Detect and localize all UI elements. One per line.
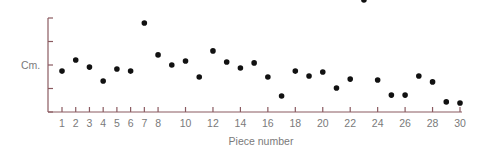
data-point [265,74,271,80]
data-point [183,58,189,64]
x-tick-label: 6 [128,117,134,129]
data-point [238,65,244,71]
x-tick-label: 22 [344,117,356,129]
data-point [457,100,463,106]
data-point [402,92,408,98]
x-tick-label: 7 [141,117,147,129]
x-tick-label: 1 [59,117,65,129]
x-tick-label: 20 [317,117,329,129]
x-tick-label: 18 [289,117,301,129]
x-tick-label: 3 [87,117,93,129]
data-point [196,74,202,80]
data-point [416,73,422,79]
x-tick-label: 4 [100,117,106,129]
x-tick-label: 24 [372,117,384,129]
data-point [210,48,216,54]
data-point [155,52,161,58]
data-point [114,66,120,72]
scatter-chart: 123456781012141618202224262830 Cm. Piece… [0,0,489,154]
x-tick-label: 8 [155,117,161,129]
data-point [169,62,175,68]
data-point [59,68,65,74]
x-tick-label: 26 [399,117,411,129]
data-point [73,57,79,63]
x-tick-label: 14 [235,117,247,129]
x-axis-label: Piece number [229,135,294,147]
x-axis: 123456781012141618202224262830 [48,107,466,129]
x-tick-label: 10 [180,117,192,129]
data-point [224,59,230,65]
data-point [389,92,395,98]
x-tick-label: 2 [73,117,79,129]
y-axis-label: Cm. [21,59,40,71]
data-points [59,0,463,106]
data-point [128,68,134,74]
x-tick-label: 12 [207,117,219,129]
data-point [142,20,148,26]
data-point [347,76,353,82]
x-tick-label: 5 [114,117,120,129]
data-point [375,77,381,83]
data-point [251,60,257,66]
x-tick-label: 30 [454,117,466,129]
data-point [279,93,285,99]
data-point [361,0,367,3]
x-tick-label: 28 [427,117,439,129]
y-axis [48,18,53,112]
data-point [443,99,449,105]
data-point [100,78,106,84]
data-point [334,85,340,91]
data-point [320,69,326,75]
x-tick-label: 16 [262,117,274,129]
data-point [293,68,299,74]
data-point [306,73,312,79]
data-point [87,64,93,70]
data-point [430,79,436,85]
